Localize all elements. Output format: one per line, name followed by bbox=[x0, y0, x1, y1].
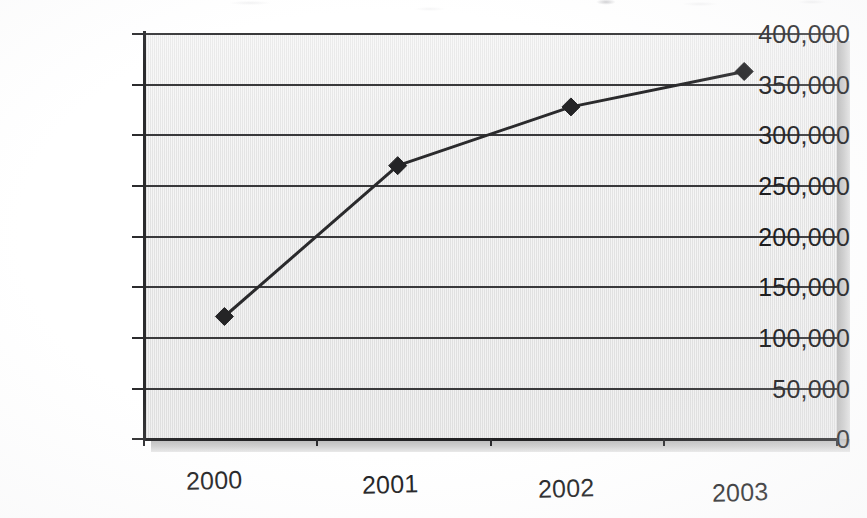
x-tick-1 bbox=[316, 439, 318, 446]
x-tick-start bbox=[143, 439, 145, 446]
y-tick-150000 bbox=[132, 286, 143, 288]
gridline-150000 bbox=[143, 286, 837, 288]
gridline-250000 bbox=[143, 185, 837, 187]
x-axis-label-2000: 2000 bbox=[186, 465, 243, 496]
x-axis-label-2003: 2003 bbox=[712, 477, 769, 508]
y-axis-label-300000: 300,000 bbox=[741, 121, 867, 150]
gridline-400000 bbox=[143, 33, 837, 35]
y-tick-100000 bbox=[132, 337, 143, 339]
gridline-300000 bbox=[143, 134, 837, 136]
line-chart-figure: 400,000 350,000 300,000 250,000 200,000 … bbox=[0, 0, 867, 518]
y-axis-label-150000: 150,000 bbox=[741, 273, 867, 302]
gridline-50000 bbox=[143, 388, 837, 390]
cropped-title-scan-artifact bbox=[0, 0, 867, 14]
y-axis-label-0: 0 bbox=[741, 425, 867, 454]
y-tick-300000 bbox=[132, 134, 143, 136]
y-axis-label-250000: 250,000 bbox=[741, 172, 867, 201]
x-tick-3 bbox=[663, 439, 665, 446]
y-axis-label-50000: 50,000 bbox=[741, 375, 867, 404]
gridline-200000 bbox=[143, 236, 837, 238]
y-axis-label-400000: 400,000 bbox=[741, 20, 867, 49]
y-tick-0 bbox=[132, 438, 143, 440]
gridline-350000 bbox=[143, 84, 837, 86]
y-tick-400000 bbox=[132, 33, 143, 35]
y-tick-200000 bbox=[132, 236, 143, 238]
y-axis-label-200000: 200,000 bbox=[741, 223, 867, 252]
x-axis-label-2002: 2002 bbox=[538, 473, 595, 504]
x-tick-end bbox=[836, 439, 838, 446]
y-axis-label-350000: 350,000 bbox=[741, 71, 867, 100]
y-tick-350000 bbox=[132, 84, 143, 86]
gridline-100000 bbox=[143, 337, 837, 339]
y-axis-label-100000: 100,000 bbox=[741, 324, 867, 353]
y-axis-line bbox=[143, 31, 146, 441]
y-tick-50000 bbox=[132, 388, 143, 390]
x-axis-label-2001: 2001 bbox=[362, 469, 419, 500]
x-tick-2 bbox=[490, 439, 492, 446]
y-tick-250000 bbox=[132, 185, 143, 187]
